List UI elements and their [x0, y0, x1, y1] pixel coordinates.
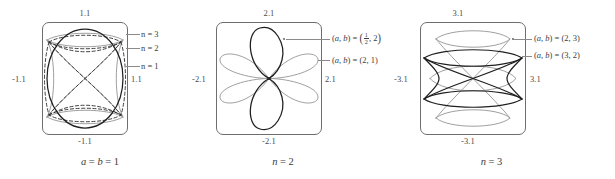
- panel-2-leader-bottom: [318, 60, 330, 61]
- panel-2-axis-label-right: 2.1: [325, 74, 336, 84]
- panel-2-annotation-two-one-mid: ) = (: [348, 55, 363, 65]
- panel-3-annotation-three-two: (a, b) = (3, 2): [534, 50, 580, 60]
- panel-2-caption-eq: =: [280, 156, 286, 167]
- panel-2-annotation-half-two-close: ) =: [348, 33, 360, 43]
- panel-1-annotation-n1: n = 1: [141, 61, 159, 71]
- panel-1: n = 3 n = 2 n = 1 1.1 -1.1 -1.1 1.1 a = …: [0, 0, 200, 179]
- panel-3: (a, b) = (2, 3) (a, b) = (3, 2) 3.1 -3.1…: [404, 0, 615, 179]
- panel-3-caption-value: 3: [497, 156, 502, 167]
- lissajous-figure: n = 3 n = 2 n = 1 1.1 -1.1 -1.1 1.1 a = …: [0, 0, 615, 179]
- panel-1-axis-label-bottom: -1.1: [42, 136, 128, 146]
- panel-1-curves: [42, 22, 128, 135]
- panel-1-annotation-n2: n = 2: [141, 43, 159, 53]
- panel-1-annotation-n3: n = 3: [141, 29, 159, 39]
- panel-3-axis-label-left: -3.1: [394, 74, 408, 84]
- panel-1-caption-value: 1: [114, 156, 119, 167]
- panel-3-annotation-two-three-mid: ) = (: [550, 33, 565, 43]
- panel-2-annotation-fraction: 12: [364, 32, 369, 46]
- panel-3-annotation-three-two-close: ): [577, 50, 580, 60]
- panel-1-axis-label-top: 1.1: [42, 8, 128, 18]
- panel-1-leader-n3: [126, 34, 140, 35]
- panel-2-annotation-paren-close: ): [378, 33, 381, 43]
- panel-1-axis-label-right: 1.1: [131, 74, 142, 84]
- panel-1-annotation-n1-text: n = 1: [141, 61, 159, 71]
- panel-3-caption: n = 3: [386, 156, 597, 167]
- panel-1-annotation-n3-text: n = 3: [141, 29, 159, 39]
- panel-1-caption-a: a: [81, 156, 86, 167]
- panel-3-axis-label-bottom: -3.1: [420, 136, 516, 146]
- panel-2-annotation-fraction-denominator: 2: [364, 38, 369, 45]
- panel-3-axis-label-right: 3.1: [530, 74, 541, 84]
- panel-2-caption: n = 2: [178, 156, 388, 167]
- panel-2-annotation-two-one-close: ): [375, 55, 378, 65]
- panel-2-axis-label-top: 2.1: [216, 8, 322, 18]
- panel-2-leader-top: [286, 39, 330, 40]
- panel-1-axis-label-left: -1.1: [12, 74, 26, 84]
- panel-2-axis-label-bottom: -2.1: [216, 136, 322, 146]
- panel-3-caption-n: n: [481, 156, 486, 167]
- panel-2-caption-value: 2: [289, 156, 294, 167]
- panel-3-axis-label-top: 3.1: [420, 8, 496, 18]
- panel-1-annotation-n2-text: n = 2: [141, 43, 159, 53]
- panel-3-annotation-three-two-mid: ) = (: [550, 50, 565, 60]
- panel-2-annotation-two-one: (a, b) = (2, 1): [332, 55, 378, 65]
- panel-1-leader-n1: [126, 66, 140, 67]
- panel-3-annotation-two-three-close: ): [577, 33, 580, 43]
- panel-3-leader-top: [514, 39, 532, 40]
- panel-1-caption: a = b = 1: [0, 156, 200, 167]
- panel-3-curves: [420, 22, 526, 135]
- panel-2-annotation-half-two: (a, b) = (12, 2): [332, 32, 382, 46]
- panel-1-caption-eq1: =: [89, 156, 95, 167]
- panel-3-leader-bottom: [522, 56, 532, 57]
- panel-2-axis-label-left: -2.1: [192, 74, 206, 84]
- panel-1-leader-n2: [126, 48, 140, 49]
- panel-1-caption-eq2: =: [105, 156, 111, 167]
- panel-3-annotation-two-three: (a, b) = (2, 3): [534, 33, 580, 43]
- panel-3-caption-eq: =: [489, 156, 495, 167]
- panel-2-caption-n: n: [272, 156, 277, 167]
- panel-2: (a, b) = (12, 2) (a, b) = (2, 1) 2.1 -2.…: [196, 0, 406, 179]
- panel-1-caption-b: b: [97, 156, 102, 167]
